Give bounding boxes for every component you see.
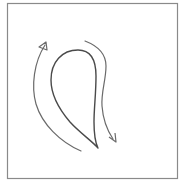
sketch-canvas <box>0 0 184 183</box>
frame-border <box>8 4 178 179</box>
sketch-drawing <box>0 0 184 183</box>
